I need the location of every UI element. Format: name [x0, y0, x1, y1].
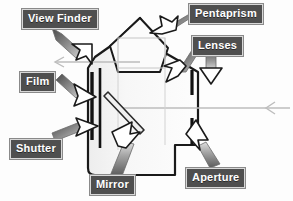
aperture-arrow-shaft: [198, 142, 220, 168]
label-view-finder[interactable]: View Finder: [22, 9, 98, 29]
label-lenses[interactable]: Lenses: [192, 36, 243, 56]
pentaprism-shape: [110, 18, 168, 72]
lenses-arrow-head-down: [200, 68, 222, 84]
label-pentaprism[interactable]: Pentaprism: [189, 4, 263, 24]
camera-cross-section-diagram: View Finder Pentaprism Lenses Film Shutt…: [0, 0, 293, 201]
view-finder-arrow-shaft: [52, 28, 82, 58]
diagram-canvas: [0, 0, 293, 201]
label-shutter[interactable]: Shutter: [10, 139, 62, 159]
pentaprism-arrow-head: [150, 16, 178, 34]
pentaprism-outline: [110, 18, 168, 72]
view-finder-pointer: [52, 28, 92, 64]
label-aperture[interactable]: Aperture: [186, 168, 245, 188]
label-mirror[interactable]: Mirror: [90, 175, 135, 195]
label-film[interactable]: Film: [20, 72, 55, 92]
